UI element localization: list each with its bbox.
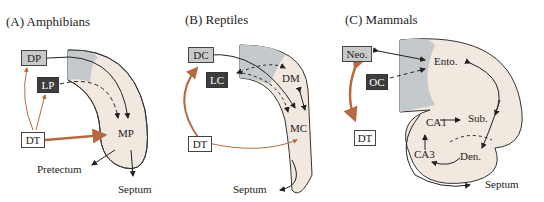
lp-box: LP <box>37 77 59 93</box>
mc-label: MC <box>290 122 307 134</box>
lc-box: LC <box>206 72 228 88</box>
panel-a-title: (A) Amphibians <box>6 14 90 30</box>
dt-box-c: DT <box>354 130 376 146</box>
sub-label: Sub. <box>468 112 488 124</box>
dt-box-a: DT <box>21 132 45 148</box>
amphibian-pallium <box>25 50 148 176</box>
dc-box: DC <box>188 47 214 63</box>
neo-box: Neo. <box>342 46 372 62</box>
panel-c-title: (C) Mammals <box>345 12 418 28</box>
ento-label: Ento. <box>434 55 458 67</box>
dm-label: DM <box>282 72 300 84</box>
reptile-pallium <box>184 45 312 193</box>
septum-label-b: Septum <box>233 183 267 195</box>
septum-label-a: Septum <box>118 183 152 195</box>
ca3-label: CA3 <box>414 148 435 160</box>
oc-box: OC <box>366 74 388 90</box>
dp-box: DP <box>21 50 47 66</box>
septum-label-c: Septum <box>485 178 519 190</box>
den-label: Den. <box>460 150 481 162</box>
pretectum-label: Pretectum <box>37 163 82 175</box>
dt-box-b: DT <box>188 136 212 152</box>
panel-b-title: (B) Reptiles <box>185 12 248 28</box>
ca1-label: CA1 <box>426 116 447 128</box>
mp-label: MP <box>118 127 134 139</box>
